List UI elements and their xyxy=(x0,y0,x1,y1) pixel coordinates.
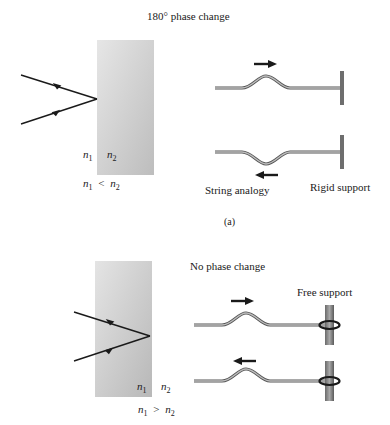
free-support-label: Free support xyxy=(297,286,352,298)
label-n2-a: n2 xyxy=(107,148,117,163)
string-free-upper xyxy=(194,297,340,345)
arrow-left-icon xyxy=(233,357,256,365)
slab-medium-2 xyxy=(97,40,154,175)
string-free-lower xyxy=(194,357,340,401)
string-analogy-label: String analogy xyxy=(205,184,269,196)
string-rigid-lower xyxy=(215,135,344,179)
panel-b-title: No phase change xyxy=(190,260,265,272)
relation-a: n1 < n2 xyxy=(83,177,120,192)
panel-a-title: 180° phase change xyxy=(147,10,230,22)
relation-b: n1 > n2 xyxy=(138,403,175,418)
caption-a: (a) xyxy=(224,216,235,227)
n1-subscript: 1 xyxy=(89,154,93,163)
arrow-left-icon xyxy=(255,171,278,179)
rigid-support-upper xyxy=(340,71,344,105)
slab-medium-1 xyxy=(95,261,152,397)
arrowhead-reflected xyxy=(51,83,61,90)
rigid-support-label: Rigid support xyxy=(310,181,370,193)
rigid-support-lower xyxy=(340,135,344,169)
light-rays-a xyxy=(21,75,97,124)
label-n1-a: n1 xyxy=(83,148,93,163)
diagram-canvas xyxy=(0,0,390,425)
greater-than-symbol: > xyxy=(153,403,159,415)
arrow-right-icon xyxy=(254,60,277,68)
panel-a xyxy=(21,40,344,179)
arrow-right-icon xyxy=(231,297,254,305)
label-n1-b: n1 xyxy=(137,380,147,395)
label-n2-b: n2 xyxy=(161,380,171,395)
string-rigid-upper xyxy=(215,60,344,105)
less-than-symbol: < xyxy=(98,177,104,189)
panel-b xyxy=(74,261,340,401)
n2-subscript: 2 xyxy=(113,154,117,163)
